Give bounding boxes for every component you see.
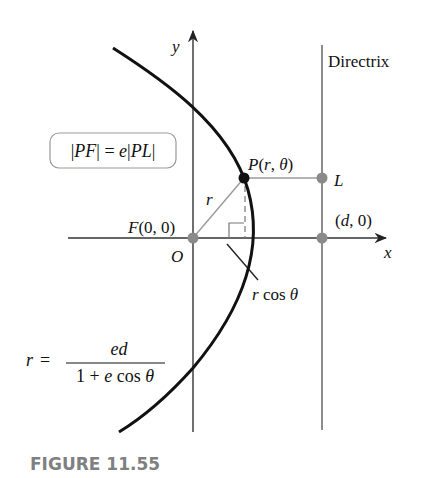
figure-caption: FIGURE 11.55 (30, 454, 160, 474)
segment-FP (193, 178, 244, 238)
point-P (239, 173, 250, 184)
x-axis-label: x (383, 243, 392, 262)
radius-label: r (206, 190, 213, 209)
point-d (317, 233, 328, 244)
point-L (317, 173, 328, 184)
projection-label: r cos θ (252, 285, 298, 304)
polar-eq-numerator: ed (111, 339, 129, 359)
y-axis-label: y (170, 37, 180, 56)
conic-diagram: y x O Directrix F(0, 0) P(r, θ) L (d, 0)… (0, 0, 430, 478)
polar-eq-equals: = (40, 350, 50, 370)
point-P-label: P(r, θ) (247, 155, 293, 174)
focus-point (188, 233, 199, 244)
point-d-label: (d, 0) (335, 211, 372, 230)
point-L-label: L (333, 171, 343, 190)
polar-eq-r: r (26, 350, 34, 370)
right-angle-marker (229, 223, 244, 238)
polar-eq-denominator: 1 + e cos θ (76, 366, 154, 386)
origin-label: O (171, 247, 183, 266)
definition-equation: |PF| = e|PL| (71, 141, 156, 161)
directrix-label: Directrix (328, 52, 390, 71)
focus-label: F(0, 0) (127, 218, 175, 237)
